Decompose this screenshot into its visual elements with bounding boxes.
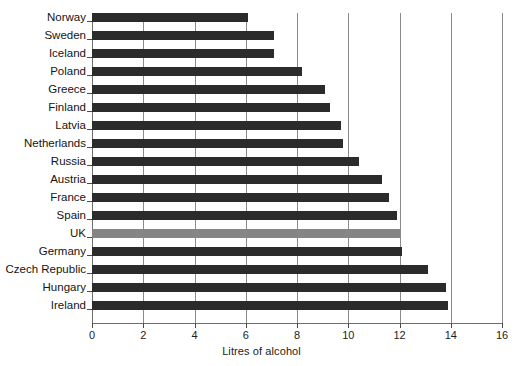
- bar-spain: [92, 211, 397, 220]
- y-tick-germany: [87, 255, 92, 256]
- y-tick-latvia: [87, 129, 92, 130]
- x-tick-label-14: 14: [431, 329, 471, 342]
- x-tick-label-4: 4: [175, 329, 215, 342]
- x-tick-14: [451, 323, 452, 328]
- y-tick-ireland: [87, 309, 92, 310]
- x-tick-label-8: 8: [277, 329, 317, 342]
- y-tick-netherlands: [87, 147, 92, 148]
- bar-row: Hungary: [92, 283, 502, 301]
- alcohol-consumption-bar-chart: NorwaySwedenIcelandPolandGreeceFinlandLa…: [0, 0, 523, 366]
- category-label-norway: Norway: [47, 10, 86, 24]
- x-tick-label-12: 12: [380, 329, 420, 342]
- bar-row: Czech Republic: [92, 265, 502, 283]
- bar-row: Latvia: [92, 121, 502, 139]
- bar-ireland: [92, 301, 448, 310]
- x-axis-title: Litres of alcohol: [0, 345, 523, 357]
- category-label-uk: UK: [70, 226, 86, 240]
- category-label-ireland: Ireland: [51, 298, 86, 312]
- bar-row: Netherlands: [92, 139, 502, 157]
- gridline-16: [502, 13, 503, 323]
- bar-sweden: [92, 31, 274, 40]
- x-tick-10: [348, 323, 349, 328]
- y-tick-norway: [87, 21, 92, 22]
- bar-row: Finland: [92, 103, 502, 121]
- y-tick-spain: [87, 219, 92, 220]
- x-tick-label-0: 0: [72, 329, 112, 342]
- x-tick-label-16: 16: [482, 329, 522, 342]
- y-tick-france: [87, 201, 92, 202]
- category-label-finland: Finland: [48, 100, 86, 114]
- y-tick-poland: [87, 75, 92, 76]
- y-tick-sweden: [87, 39, 92, 40]
- y-tick-russia: [87, 165, 92, 166]
- x-tick-6: [246, 323, 247, 328]
- bar-row: Iceland: [92, 49, 502, 67]
- category-label-russia: Russia: [51, 154, 86, 168]
- bar-iceland: [92, 49, 274, 58]
- y-tick-finland: [87, 111, 92, 112]
- bar-row: Austria: [92, 175, 502, 193]
- y-tick-austria: [87, 183, 92, 184]
- bar-hungary: [92, 283, 446, 292]
- y-tick-uk: [87, 237, 92, 238]
- bar-uk: [92, 229, 400, 238]
- category-label-greece: Greece: [48, 82, 86, 96]
- bar-poland: [92, 67, 302, 76]
- bar-row: Germany: [92, 247, 502, 265]
- bar-row: Ireland: [92, 301, 502, 319]
- x-tick-label-10: 10: [328, 329, 368, 342]
- bar-finland: [92, 103, 330, 112]
- category-label-poland: Poland: [50, 64, 86, 78]
- x-tick-label-2: 2: [123, 329, 163, 342]
- x-tick-8: [297, 323, 298, 328]
- bar-row: UK: [92, 229, 502, 247]
- y-tick-greece: [87, 93, 92, 94]
- bar-row: Russia: [92, 157, 502, 175]
- bar-austria: [92, 175, 382, 184]
- bar-germany: [92, 247, 402, 256]
- plot-area: NorwaySwedenIcelandPolandGreeceFinlandLa…: [92, 13, 502, 323]
- bar-row: Sweden: [92, 31, 502, 49]
- bar-row: Norway: [92, 13, 502, 31]
- bar-latvia: [92, 121, 341, 130]
- y-tick-iceland: [87, 57, 92, 58]
- category-label-sweden: Sweden: [44, 28, 86, 42]
- bar-greece: [92, 85, 325, 94]
- category-label-netherlands: Netherlands: [24, 136, 86, 150]
- y-tick-czech-republic: [87, 273, 92, 274]
- category-label-germany: Germany: [39, 244, 86, 258]
- bar-russia: [92, 157, 359, 166]
- x-tick-16: [502, 323, 503, 328]
- bar-row: France: [92, 193, 502, 211]
- category-label-czech-republic: Czech Republic: [5, 262, 86, 276]
- bar-row: Spain: [92, 211, 502, 229]
- x-tick-label-6: 6: [226, 329, 266, 342]
- bar-czech-republic: [92, 265, 428, 274]
- bar-netherlands: [92, 139, 343, 148]
- x-tick-0: [92, 323, 93, 328]
- bar-row: Poland: [92, 67, 502, 85]
- y-tick-hungary: [87, 291, 92, 292]
- bar-france: [92, 193, 389, 202]
- category-label-france: France: [50, 190, 86, 204]
- category-label-austria: Austria: [50, 172, 86, 186]
- category-label-iceland: Iceland: [49, 46, 86, 60]
- x-tick-2: [143, 323, 144, 328]
- bar-norway: [92, 13, 248, 22]
- bar-row: Greece: [92, 85, 502, 103]
- x-tick-4: [195, 323, 196, 328]
- category-label-spain: Spain: [57, 208, 86, 222]
- category-label-hungary: Hungary: [43, 280, 86, 294]
- x-tick-12: [400, 323, 401, 328]
- category-label-latvia: Latvia: [55, 118, 86, 132]
